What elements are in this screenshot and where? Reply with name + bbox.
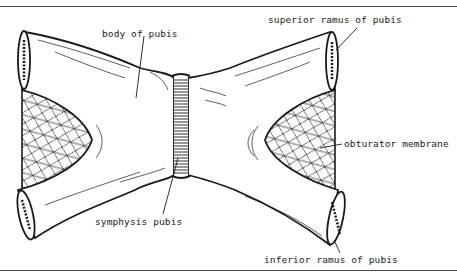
leader-superior-ramus: [336, 28, 357, 50]
label-body-of-pubis: body of pubis: [102, 29, 178, 39]
label-symphysis-pubis: symphysis pubis: [95, 217, 182, 227]
label-inferior-ramus-of-pubis: inferior ramus of pubis: [264, 255, 398, 265]
label-obturator-membrane: obturator membrane: [344, 139, 449, 149]
leader-inferior-ramus: [334, 240, 340, 253]
figure-frame: body of pubis superior ramus of pubis ob…: [0, 0, 457, 278]
label-superior-ramus-of-pubis: superior ramus of pubis: [268, 15, 402, 25]
symphysis-pubis: [172, 74, 190, 178]
